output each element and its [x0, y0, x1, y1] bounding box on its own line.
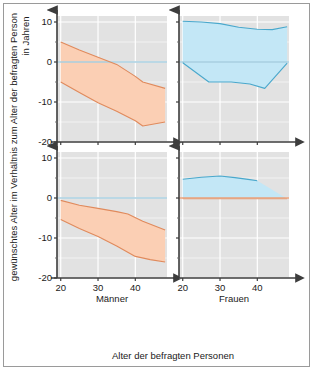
x-tick-label-20: 20	[177, 282, 188, 293]
y-tick-label-0: 0	[47, 56, 52, 67]
panel-top-left: 100-10-20	[38, 10, 174, 147]
y-tick-label-0: 0	[47, 192, 52, 203]
x-tick-label-30: 30	[215, 282, 226, 293]
chart-svg: 100-10-20100-10-20203040Männer203040Frau…	[4, 4, 309, 366]
x-tick-label-40: 40	[252, 282, 263, 293]
y-tick-label--10: -10	[38, 96, 52, 107]
y-axis-title-line1: gewünschtes Alter im Verhältnis zum Alte…	[8, 13, 19, 281]
x-axis-title: Alter der befragten Personen	[112, 350, 234, 361]
y-axis-title-line2: in Jahren	[20, 16, 31, 55]
panel-group-label-women: Frauen	[219, 293, 249, 304]
panel-top-right	[173, 10, 296, 145]
figure-frame: 100-10-20100-10-20203040Männer203040Frau…	[3, 3, 310, 367]
x-tick-label-20: 20	[55, 282, 66, 293]
y-tick-label--20: -20	[38, 272, 52, 283]
y-tick-label-10: 10	[41, 152, 52, 163]
y-tick-label--10: -10	[38, 232, 52, 243]
panel-group-label-men: Männer	[96, 293, 128, 304]
panel-bottom-right: 203040Frauen	[173, 146, 296, 304]
x-tick-label-30: 30	[93, 282, 104, 293]
y-tick-label--20: -20	[38, 136, 52, 147]
y-tick-label-10: 10	[41, 16, 52, 27]
x-tick-label-40: 40	[130, 282, 141, 293]
panel-background-bottom-right	[179, 152, 289, 278]
panel-bottom-left: 100-10-20203040Männer	[38, 146, 174, 304]
